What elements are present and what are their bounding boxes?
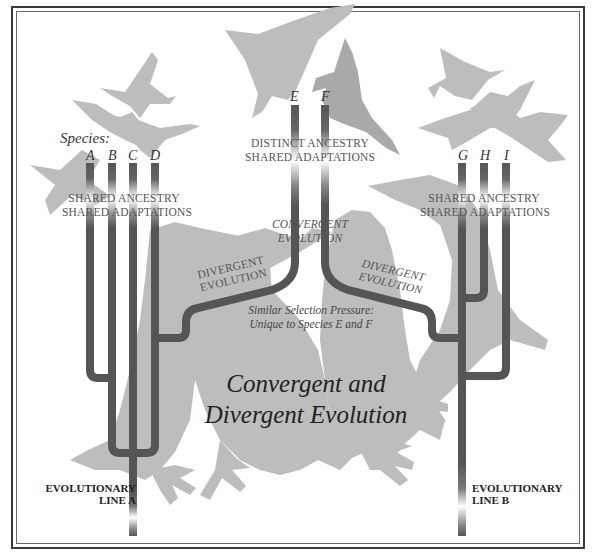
species-label-c: C xyxy=(128,149,137,163)
species-label-h: H xyxy=(480,149,490,163)
bird-feet-icon xyxy=(150,465,196,505)
flying-bird-icon xyxy=(428,48,505,100)
middle-group-line2: SHARED ADAPTATIONS xyxy=(245,152,375,164)
middle-group-label: DISTINCT ANCESTRY SHARED ADAPTATIONS xyxy=(245,138,375,163)
diagram-artwork xyxy=(0,0,598,555)
middle-group-line1: DISTINCT ANCESTRY xyxy=(245,138,375,150)
species-heading: Species: xyxy=(60,131,110,146)
line-b-label-line1: EVOLUTIONARY xyxy=(472,482,572,494)
standing-bird-icon xyxy=(320,210,445,470)
convergent-line2: EVOLUTION xyxy=(262,233,358,245)
flying-bird-icon xyxy=(100,52,176,118)
species-label-g: G xyxy=(458,149,468,163)
species-label-i: I xyxy=(504,149,509,163)
right-group-line2: SHARED ADAPTATIONS xyxy=(420,207,548,219)
title-line2: Divergent Evolution xyxy=(196,399,416,430)
line-a-label-line1: EVOLUTIONARY xyxy=(40,482,136,494)
convergent-evolution-label: CONVERGENT EVOLUTION xyxy=(262,219,358,244)
selection-note-line2: Unique to Species E and F xyxy=(236,318,386,332)
diagram-title: Convergent and Divergent Evolution xyxy=(196,368,416,431)
selection-note-line1: Similar Selection Pressure: xyxy=(236,304,386,318)
right-group-line1: SHARED ANCESTRY xyxy=(420,193,548,205)
left-group-line2: SHARED ADAPTATIONS xyxy=(62,207,186,219)
line-a-label-line2: LINE A xyxy=(40,494,136,506)
evolutionary-line-a-label: EVOLUTIONARY LINE A xyxy=(40,482,136,506)
line-b-label-line2: LINE B xyxy=(472,494,572,506)
species-label-d: D xyxy=(150,149,160,163)
left-group-line1: SHARED ANCESTRY xyxy=(62,193,186,205)
right-group-label: SHARED ANCESTRY SHARED ADAPTATIONS xyxy=(420,193,548,218)
selection-pressure-note: Similar Selection Pressure: Unique to Sp… xyxy=(236,304,386,332)
species-label-a: A xyxy=(86,149,95,163)
title-line1: Convergent and xyxy=(196,368,416,399)
convergent-line1: CONVERGENT xyxy=(262,219,358,231)
left-group-label: SHARED ANCESTRY SHARED ADAPTATIONS xyxy=(62,193,186,218)
species-label-b: B xyxy=(108,149,117,163)
evolutionary-line-b-label: EVOLUTIONARY LINE B xyxy=(472,482,572,506)
species-label-e: E xyxy=(290,90,299,104)
species-label-f: F xyxy=(321,90,330,104)
